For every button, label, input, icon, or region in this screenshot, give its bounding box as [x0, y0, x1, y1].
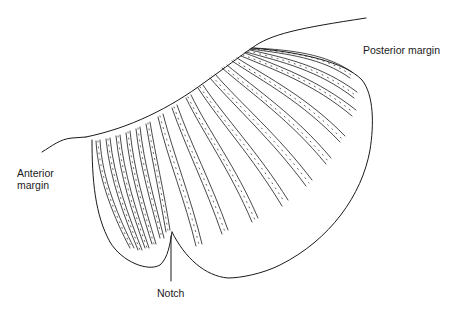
anterior-label-line1: Anterior	[17, 167, 54, 179]
anterior-margin-label: Anteriormargin	[17, 167, 54, 191]
radials-anterior	[96, 122, 170, 250]
body-lower-outline	[42, 137, 86, 152]
radial-segments	[98, 49, 355, 250]
notch-label: Notch	[157, 287, 184, 299]
radials-middle	[158, 58, 345, 246]
posterior-margin-label: Posterior margin	[363, 44, 440, 56]
body-upper-outline	[252, 18, 366, 48]
anterior-label-line2: margin	[17, 179, 49, 191]
anterior-lobe	[92, 140, 172, 267]
fin-base	[86, 48, 252, 137]
